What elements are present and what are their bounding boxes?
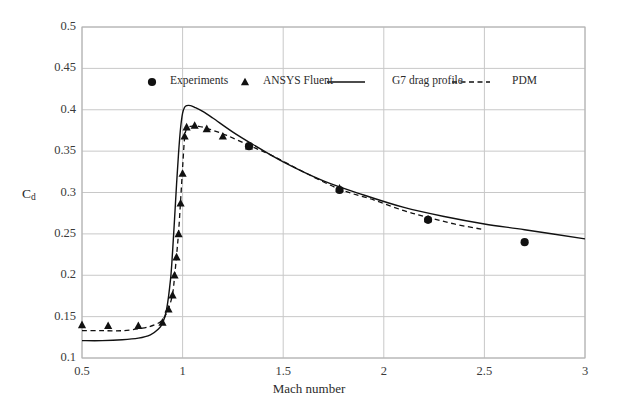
legend-label: PDM [512, 74, 537, 86]
y-tick-label: 0.4 [30, 102, 76, 117]
series-line-g7 [82, 105, 585, 340]
marker-ansys-fluent [191, 121, 199, 129]
marker-ansys-fluent [177, 199, 185, 207]
y-tick-label: 0.2 [30, 267, 76, 282]
y-tick-label: 0.35 [30, 143, 76, 158]
x-tick-label: 2.5 [464, 364, 504, 379]
legend-label: G7 drag profile [392, 74, 463, 86]
marker-ansys-fluent [203, 124, 211, 132]
x-tick-label: 1 [163, 364, 203, 379]
y-tick-label: 0.45 [30, 60, 76, 75]
y-tick-label: 0.1 [30, 350, 76, 365]
legend-label: ANSYS Fluent [263, 74, 333, 86]
marker-ansys-fluent [179, 169, 187, 177]
y-tick-label: 0.3 [30, 185, 76, 200]
marker-ansys-fluent [219, 132, 227, 140]
legend-label: Experiments [170, 74, 228, 86]
x-tick-label: 0.5 [62, 364, 102, 379]
marker-ansys-fluent [78, 321, 86, 329]
y-tick-label: 0.15 [30, 309, 76, 324]
marker-ansys-fluent [181, 132, 189, 140]
legend-marker-circle [148, 78, 156, 86]
x-tick-label: 3 [565, 364, 605, 379]
x-tick-label: 2 [364, 364, 404, 379]
marker-ansys-fluent [104, 321, 112, 329]
drag-coefficient-chart: Cd Mach number 0.10.150.20.250.30.350.40… [0, 0, 618, 413]
x-axis-label: Mach number [0, 381, 618, 397]
marker-ansys-fluent [134, 321, 142, 329]
marker-experiments [521, 238, 529, 246]
grid-lines [82, 27, 585, 358]
marker-ansys-fluent [164, 305, 172, 313]
plot-area [0, 0, 618, 413]
marker-ansys-fluent [172, 253, 180, 261]
x-tick-label: 1.5 [263, 364, 303, 379]
y-tick-label: 0.25 [30, 226, 76, 241]
data-series [78, 105, 585, 340]
legend-marker-triangle [241, 78, 249, 86]
marker-ansys-fluent [183, 123, 191, 131]
y-tick-label: 0.5 [30, 19, 76, 34]
